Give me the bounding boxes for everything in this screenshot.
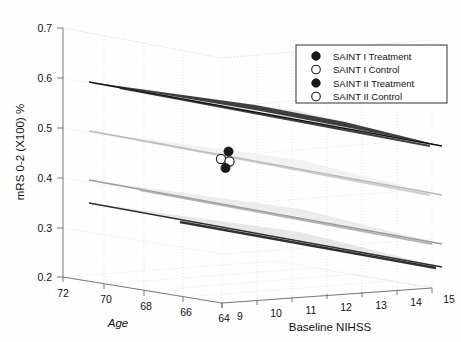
z-tick-2: 0.5 <box>37 122 52 134</box>
open-circle-icon <box>312 92 321 101</box>
legend-label-2: SAINT II Treatment <box>333 78 414 89</box>
nihss-axis-tick-labels: 9 10 11 12 13 14 15 <box>237 293 455 322</box>
nihss-tick-5: 14 <box>410 296 422 308</box>
legend[interactable]: SAINT I Treatment SAINT I Control SAINT … <box>296 45 447 103</box>
figure-3d-regression-planes: 0.7 0.6 0.5 0.4 0.3 0.2 mRS 0-2 (X100) %… <box>0 0 461 342</box>
data-point-saint-i-control[interactable] <box>216 154 225 163</box>
z-tick-3: 0.4 <box>37 172 52 184</box>
legend-label-0: SAINT I Treatment <box>333 51 412 62</box>
nihss-tick-0: 9 <box>237 310 243 322</box>
nihss-tick-1: 10 <box>270 307 282 319</box>
data-point-saint-ii-treatment[interactable] <box>221 163 230 172</box>
z-tick-0: 0.7 <box>37 22 52 34</box>
age-axis-title: Age <box>107 317 128 329</box>
filled-circle-icon <box>312 52 321 61</box>
nihss-axis-ticks <box>222 288 432 308</box>
nihss-tick-2: 11 <box>306 304 317 316</box>
nihss-tick-6: 15 <box>443 293 455 305</box>
z-axis-ticks <box>57 28 63 277</box>
legend-label-1: SAINT I Control <box>333 64 399 75</box>
chart-canvas: 0.7 0.6 0.5 0.4 0.3 0.2 mRS 0-2 (X100) %… <box>0 0 461 342</box>
age-tick-0: 72 <box>57 287 69 299</box>
age-tick-4: 64 <box>218 312 230 324</box>
age-tick-2: 68 <box>140 300 152 312</box>
surface-saint-i-control <box>89 131 442 195</box>
grid-left-wall <box>63 28 222 303</box>
z-tick-1: 0.6 <box>37 72 52 84</box>
open-circle-icon <box>312 65 321 74</box>
nihss-tick-4: 13 <box>375 299 387 311</box>
z-axis-tick-labels: 0.7 0.6 0.5 0.4 0.3 0.2 <box>37 22 52 283</box>
age-tick-1: 70 <box>100 293 112 305</box>
z-tick-4: 0.3 <box>37 222 52 234</box>
legend-label-3: SAINT II Control <box>333 91 402 102</box>
nihss-tick-3: 12 <box>340 301 352 313</box>
z-tick-5: 0.2 <box>37 271 52 283</box>
data-point-saint-i-treatment[interactable] <box>224 147 233 156</box>
z-axis-title: mRS 0-2 (X100) % <box>14 104 26 201</box>
age-tick-3: 66 <box>180 306 192 318</box>
nihss-axis-title: Baseline NIHSS <box>289 321 372 333</box>
filled-circle-icon <box>312 79 321 88</box>
